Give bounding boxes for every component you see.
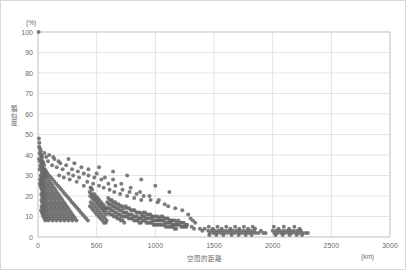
svg-text:80: 80 [25, 70, 33, 77]
plot-container: 050010001500200025003000 010203040506070… [1, 1, 406, 270]
svg-text:0: 0 [29, 234, 33, 241]
svg-text:1000: 1000 [148, 242, 164, 249]
x-axis-unit: (km) [361, 253, 374, 260]
svg-text:20: 20 [25, 193, 33, 200]
svg-text:40: 40 [25, 152, 33, 159]
svg-text:2000: 2000 [265, 242, 281, 249]
scatter-plot-svg: 050010001500200025003000 010203040506070… [1, 1, 406, 270]
svg-text:500: 500 [91, 242, 103, 249]
svg-text:0: 0 [36, 242, 40, 249]
svg-text:2500: 2500 [324, 242, 340, 249]
svg-text:90: 90 [25, 49, 33, 56]
y-axis-unit: (%) [26, 19, 36, 26]
x-axis-title: 空間的距離 [1, 253, 406, 263]
svg-text:70: 70 [25, 90, 33, 97]
y-axis-title: 類似度 [9, 105, 16, 126]
svg-text:3000: 3000 [382, 242, 398, 249]
svg-text:50: 50 [25, 131, 33, 138]
axis-tick-labels-x: 050010001500200025003000 [36, 242, 398, 249]
svg-text:60: 60 [25, 111, 33, 118]
svg-text:1500: 1500 [206, 242, 222, 249]
chart-figure: 050010001500200025003000 010203040506070… [0, 0, 406, 270]
axis-tick-labels-y: 0102030405060708090100 [21, 29, 33, 241]
svg-text:10: 10 [25, 213, 33, 220]
svg-text:30: 30 [25, 172, 33, 179]
svg-text:100: 100 [21, 29, 33, 36]
data-points [37, 30, 310, 237]
